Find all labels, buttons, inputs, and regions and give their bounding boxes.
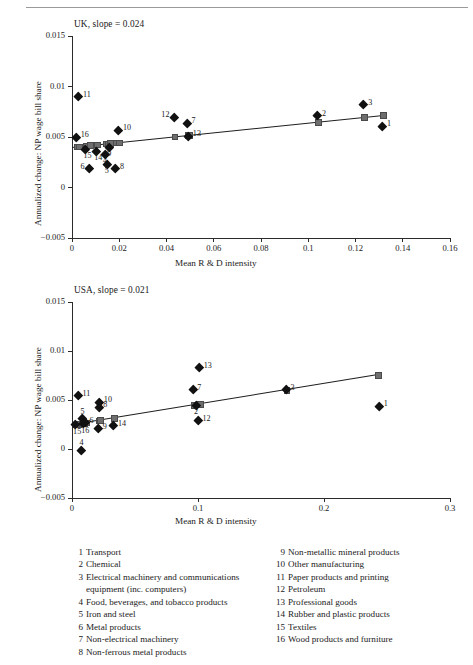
- data-point-label-uk-6: 6: [81, 163, 85, 171]
- legend-item-number-13: 13: [275, 596, 285, 608]
- legend-item-label-6: Metal products: [86, 621, 273, 633]
- data-point-label-uk-9: 9: [107, 150, 111, 158]
- x-tick-label-uk-4: 0.08: [235, 243, 287, 253]
- x-tick-label-uk-0: 0: [46, 243, 98, 253]
- fitted-square-icon: [172, 134, 179, 141]
- data-point-label-uk-15: 15: [84, 152, 92, 160]
- data-point-label-usa-7: 7: [197, 384, 201, 392]
- x-axis-line-usa: [72, 498, 450, 499]
- data-point-label-usa-5: 5: [81, 408, 85, 416]
- legend-item-label-10: Other manufacturing: [288, 558, 473, 570]
- diamond-marker-icon: [73, 390, 82, 399]
- x-tick-uk-6: [355, 238, 356, 242]
- x-tick-label-usa-3: 0.3: [424, 503, 473, 513]
- y-tick-usa-2: [68, 400, 72, 401]
- diamond-marker-icon: [74, 92, 83, 101]
- legend-item-label-14: Rubber and plastic products: [288, 608, 473, 620]
- legend-item-number-14: 14: [275, 608, 285, 620]
- data-point-label-uk-11: 11: [83, 91, 91, 99]
- diamond-marker-icon: [359, 100, 368, 109]
- chart-panel-usa: USA, slope = 0.021 Annualized change: NP…: [0, 280, 473, 530]
- x-tick-label-usa-0: 0: [46, 503, 98, 513]
- x-tick-usa-2: [324, 498, 325, 502]
- y-tick-usa-3: [68, 351, 72, 352]
- data-point-label-uk-3: 3: [368, 99, 372, 107]
- diamond-marker-icon: [111, 164, 120, 173]
- x-tick-uk-0: [72, 238, 73, 242]
- data-point-label-usa-16: 16: [81, 427, 89, 435]
- legend-item-8: 8Non-ferrous metal products: [73, 646, 273, 658]
- data-point-label-uk-2: 2: [322, 110, 326, 118]
- plot-area-usa: 00.10.20.3−0.00500.0050.010.015123456789…: [72, 302, 450, 498]
- legend-item-number-15: 15: [275, 621, 285, 633]
- diamond-marker-icon: [193, 416, 202, 425]
- y-tick-label-uk-4: 0.015: [20, 30, 65, 40]
- legend-item-label-13: Professional goods: [288, 596, 473, 608]
- legend-item-label-12: Petroleum: [288, 583, 473, 595]
- legend-item-number-8: 8: [73, 646, 83, 658]
- legend-item-13: 13Professional goods: [275, 596, 473, 608]
- y-tick-label-usa-1: 0: [20, 443, 65, 453]
- x-tick-label-uk-3: 0.06: [188, 243, 240, 253]
- x-axis-title-usa: Mean R & D intensity: [175, 516, 257, 526]
- legend-item-7: 7Non-electrical machinery: [73, 633, 273, 645]
- fitted-square-icon: [116, 140, 123, 147]
- data-point-label-uk-5: 5: [105, 167, 109, 175]
- x-tick-uk-2: [166, 238, 167, 242]
- y-tick-label-usa-4: 0.015: [20, 296, 65, 306]
- chart-panel-uk: UK, slope = 0.024 Annualized change: NP …: [0, 14, 473, 276]
- fitted-square-icon: [361, 114, 368, 121]
- x-tick-usa-0: [72, 498, 73, 502]
- legend-item-9: 9Non-metallic mineral products: [275, 546, 473, 558]
- diamond-marker-icon: [188, 385, 197, 394]
- data-point-label-usa-3: 3: [291, 384, 295, 392]
- data-point-label-usa-14: 14: [118, 420, 126, 428]
- legend-item-number-6: 6: [73, 621, 83, 633]
- data-point-label-usa-4: 4: [80, 439, 84, 447]
- legend-item-number-11: 11: [275, 571, 285, 583]
- legend-item-11: 11Paper products and printing: [275, 571, 473, 583]
- legend-item-label-4: Food, beverages, and tobacco products: [86, 596, 273, 608]
- y-tick-label-uk-3: 0.01: [20, 81, 65, 91]
- legend-item-number-7: 7: [73, 633, 83, 645]
- legend-item-number-16: 16: [275, 633, 285, 645]
- diamond-marker-icon: [169, 112, 178, 121]
- fitted-square-icon: [380, 112, 387, 119]
- y-tick-label-uk-2: 0.005: [20, 131, 65, 141]
- legend-item-label-9: Non-metallic mineral products: [288, 546, 473, 558]
- panel-title-uk: UK, slope = 0.024: [74, 19, 144, 29]
- legend-item-1: 1Transport: [73, 546, 273, 558]
- fitted-square-icon: [375, 372, 382, 379]
- y-tick-label-usa-3: 0.01: [20, 345, 65, 355]
- x-tick-label-usa-1: 0.1: [172, 503, 224, 513]
- x-tick-uk-7: [402, 238, 403, 242]
- data-point-label-uk-16: 16: [81, 131, 89, 139]
- y-tick-usa-4: [68, 302, 72, 303]
- y-tick-label-uk-0: −0.005: [20, 232, 65, 242]
- data-point-label-usa-6: 6: [90, 417, 94, 425]
- y-tick-uk-0: [68, 238, 72, 239]
- figure-page: UK, slope = 0.024 Annualized change: NP …: [0, 0, 473, 665]
- y-tick-uk-1: [68, 187, 72, 188]
- y-tick-label-uk-1: 0: [20, 182, 65, 192]
- data-point-label-usa-15: 15: [73, 428, 81, 436]
- x-tick-label-uk-7: 0.14: [377, 243, 429, 253]
- y-tick-uk-3: [68, 86, 72, 87]
- legend-item-label-2: Chemical: [86, 558, 273, 570]
- data-point-label-uk-14: 14: [94, 154, 102, 162]
- legend-item-6: 6Metal products: [73, 621, 273, 633]
- legend-item-label-1: Transport: [86, 546, 273, 558]
- plot-area-uk: 00.020.040.060.080.10.120.140.16−0.00500…: [72, 36, 450, 238]
- data-point-label-uk-8: 8: [120, 163, 124, 171]
- legend-item-label-3: Electrical machinery and communications: [86, 571, 273, 583]
- x-tick-label-uk-8: 0.16: [424, 243, 473, 253]
- legend-item-label-8: Non-ferrous metal products: [86, 646, 273, 658]
- x-tick-label-uk-5: 0.1: [282, 243, 334, 253]
- panel-title-usa: USA, slope = 0.021: [74, 285, 149, 295]
- x-tick-label-usa-2: 0.2: [298, 503, 350, 513]
- industry-legend-right-column: 9Non-metallic mineral products10Other ma…: [275, 546, 473, 646]
- legend-item-2: 2Chemical: [73, 558, 273, 570]
- data-point-label-uk-7: 7: [191, 117, 195, 125]
- data-point-label-uk-10: 10: [123, 124, 131, 132]
- diamond-marker-icon: [375, 401, 384, 410]
